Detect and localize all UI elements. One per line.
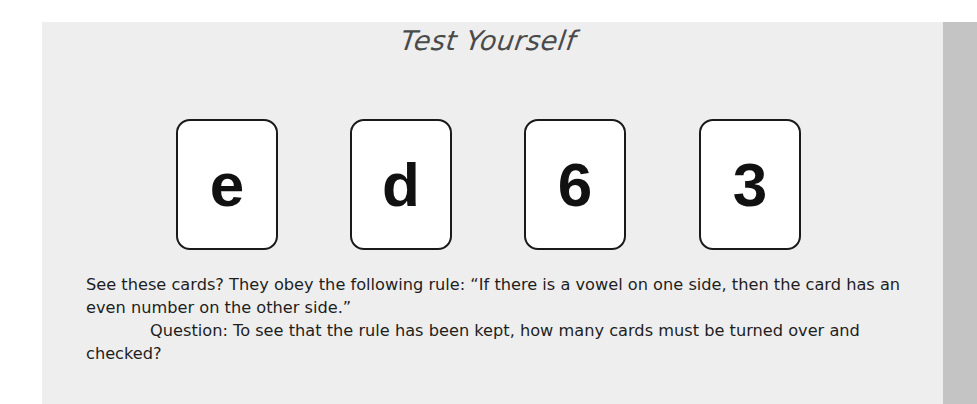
rule-paragraph: See these cards? They obey the following… [86, 273, 916, 319]
body-text: See these cards? They obey the following… [86, 273, 916, 365]
card-face: d [382, 149, 420, 220]
side-margin-strip [943, 22, 977, 404]
card-face: 6 [558, 149, 592, 220]
card-face: e [210, 149, 244, 220]
card-e: e [176, 119, 278, 250]
card-3: 3 [699, 119, 801, 250]
card-face: 3 [733, 149, 767, 220]
card-6: 6 [524, 119, 626, 250]
card-d: d [350, 119, 452, 250]
box-title: Test Yourself [0, 25, 977, 56]
question-paragraph: Question: To see that the rule has been … [86, 319, 916, 365]
